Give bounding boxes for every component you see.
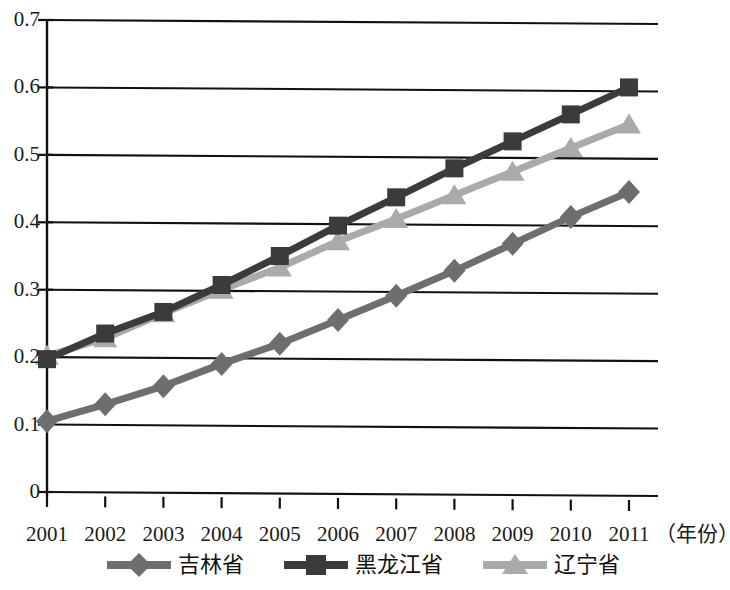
legend-marker-diamond-icon: [105, 552, 173, 578]
legend-item[interactable]: 黑龙江省: [282, 552, 443, 578]
legend-item[interactable]: 吉林省: [105, 552, 244, 578]
y-tick-label: 0: [0, 481, 40, 502]
gridline-y: [47, 290, 658, 294]
y-tick-label: 0.2: [0, 346, 40, 367]
data-point-diamond: [152, 374, 174, 398]
x-tick-label: 2003: [133, 524, 193, 545]
data-point-diamond: [211, 352, 233, 376]
data-point-triangle: [617, 114, 641, 134]
chart-legend: 吉林省黑龙江省辽宁省: [0, 552, 725, 578]
x-tick-label: 2004: [192, 524, 252, 545]
y-tick-label: 0.3: [0, 279, 40, 300]
gridline-y: [47, 492, 658, 496]
x-axis-title: （年份）: [655, 524, 730, 545]
data-point-square: [329, 217, 347, 235]
x-tick-label: 2005: [250, 524, 310, 545]
data-point-square: [445, 159, 463, 177]
data-point-square: [562, 105, 580, 123]
x-tick-label: 2002: [75, 524, 135, 545]
data-point-diamond: [385, 284, 407, 308]
x-tick-label: 2006: [308, 524, 368, 545]
gridline-y: [47, 425, 658, 429]
data-point-diamond: [269, 332, 291, 356]
y-tick-label: 0.5: [0, 144, 40, 165]
data-point-square: [387, 188, 405, 206]
gridline-y: [47, 20, 658, 24]
legend-marker-triangle-icon: [481, 552, 549, 578]
gridline-y: [47, 87, 658, 91]
data-point-square: [271, 247, 289, 265]
x-tick-label: 2001: [17, 524, 77, 545]
data-point-square: [213, 276, 231, 294]
data-point-diamond: [94, 392, 116, 416]
data-point-diamond: [502, 232, 524, 256]
x-tick-label: 2007: [366, 524, 426, 545]
y-tick-label: 0.6: [0, 76, 40, 97]
y-tick-label: 0.7: [0, 9, 40, 30]
data-point-square: [38, 350, 56, 368]
y-tick-label: 0.1: [0, 414, 40, 435]
legend-square-icon: [306, 555, 326, 575]
legend-diamond-icon: [127, 553, 151, 577]
legend-label: 辽宁省: [554, 554, 620, 576]
legend-label: 吉林省: [178, 554, 244, 576]
data-point-square: [96, 325, 114, 343]
legend-marker-square-icon: [282, 552, 350, 578]
gridline-y: [47, 357, 658, 361]
data-point-square: [504, 132, 522, 150]
data-point-diamond: [618, 180, 640, 204]
data-point-square: [154, 303, 172, 321]
x-tick-label: 2011: [599, 524, 659, 545]
x-tick-label: 2010: [541, 524, 601, 545]
data-point-square: [620, 78, 638, 96]
x-tick-label: 2008: [424, 524, 484, 545]
x-tick-label: 2009: [483, 524, 543, 545]
legend-item[interactable]: 辽宁省: [481, 552, 620, 578]
data-point-diamond: [327, 308, 349, 332]
y-tick-label: 0.4: [0, 211, 40, 232]
legend-label: 黑龙江省: [355, 554, 443, 576]
data-point-diamond: [443, 259, 465, 283]
